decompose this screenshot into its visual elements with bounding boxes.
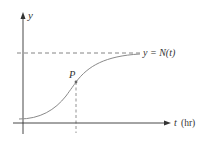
curve-label: y = N(t) [142,47,176,59]
y-axis-arrow-icon [21,12,26,19]
point-label-p: P [68,69,76,80]
inflection-point-p [75,81,78,84]
y-axis-label: y [27,9,33,21]
logistic-curve [19,54,140,119]
x-axis-label-unit: (hr) [181,118,195,129]
logistic-growth-diagram: y P y = N(t) t (hr) [0,0,200,144]
x-axis-arrow-icon [164,121,171,126]
x-axis-label-var: t [174,117,177,128]
